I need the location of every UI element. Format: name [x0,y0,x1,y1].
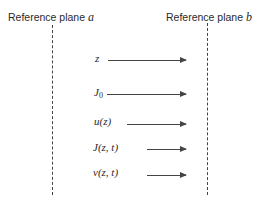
reference-plane-a-label: Reference plane a [8,10,94,25]
var-vzt-label: v(z, t) [93,166,118,178]
var-j0-arrow [107,94,186,95]
var-jzt-label: J(z, t) [93,141,118,153]
plane-a-symbol: a [88,10,94,24]
plane-b-symbol: b [246,10,252,24]
plane-a-text: Reference plane [8,11,85,23]
var-vzt-arrow [147,175,186,176]
var-j0-label: J0 [94,86,103,100]
var-z-arrow [108,60,186,61]
var-uz-arrow [127,124,186,125]
reference-plane-b-line [207,23,208,195]
var-uz-label: u(z) [94,115,111,127]
reference-plane-b-label: Reference plane b [166,10,252,25]
var-jzt-arrow [147,149,186,150]
var-z-label: z [95,52,99,64]
reference-plane-a-line [52,25,53,195]
plane-b-text: Reference plane [166,11,243,23]
j0-sub: 0 [99,91,103,100]
